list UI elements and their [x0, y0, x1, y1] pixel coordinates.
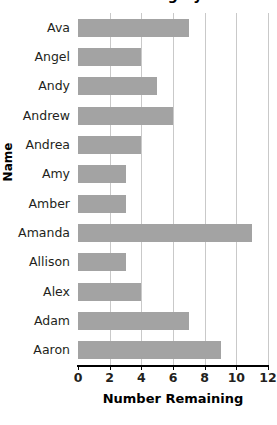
bar: [78, 224, 252, 242]
y-axis-tick-label: Amanda: [0, 226, 70, 240]
y-axis-tick-label: Ava: [0, 21, 70, 35]
x-axis-tick-label: 6: [158, 370, 188, 385]
x-axis-tick-label: 0: [63, 370, 93, 385]
y-axis-tick-label: Alex: [0, 285, 70, 299]
bar: [78, 312, 189, 330]
x-axis-title: Number Remaining: [78, 391, 268, 406]
bar: [78, 195, 126, 213]
y-axis-tick-label: Amy: [0, 167, 70, 181]
y-axis-tick-label: Angel: [0, 50, 70, 64]
plot-area: [78, 13, 268, 365]
y-axis-tick-labels: AvaAngelAndyAndrewAndreaAmyAmberAmandaAl…: [0, 13, 74, 365]
x-axis-tick-label: 2: [95, 370, 125, 385]
bar: [78, 77, 157, 95]
x-axis-tick-label: 10: [221, 370, 251, 385]
x-axis-tick-label: 12: [253, 370, 277, 385]
x-axis-tickmark: [110, 367, 111, 370]
gridline: [268, 13, 269, 365]
bar: [78, 48, 141, 66]
x-axis-tick-label: 4: [126, 370, 156, 385]
bar: [78, 253, 126, 271]
y-axis-tick-label: Andrew: [0, 109, 70, 123]
x-axis-tickmark: [205, 367, 206, 370]
bar: [78, 341, 221, 359]
x-axis-tickmark: [173, 367, 174, 370]
x-axis-tickmark: [141, 367, 142, 370]
x-axis-tick-label: 8: [190, 370, 220, 385]
gridline: [236, 13, 237, 365]
x-axis-tickmark: [78, 367, 79, 370]
bar: [78, 165, 126, 183]
bar-chart: Number Remaining by Name Name AvaAngelAn…: [0, 0, 277, 425]
bar: [78, 136, 141, 154]
y-axis-tick-label: Amber: [0, 197, 70, 211]
bar: [78, 107, 173, 125]
x-axis-tick-labels: 024681012: [0, 370, 277, 388]
bar: [78, 283, 141, 301]
y-axis-tick-label: Allison: [0, 255, 70, 269]
y-axis-tick-label: Aaron: [0, 343, 70, 357]
x-axis-tickmark: [236, 367, 237, 370]
bar: [78, 19, 189, 37]
chart-title: Number Remaining by Name: [0, 0, 277, 3]
y-axis-tick-label: Adam: [0, 314, 70, 328]
y-axis-tick-label: Andrea: [0, 138, 70, 152]
x-axis-tickmark: [268, 367, 269, 370]
y-axis-tick-label: Andy: [0, 79, 70, 93]
gridline: [205, 13, 206, 365]
